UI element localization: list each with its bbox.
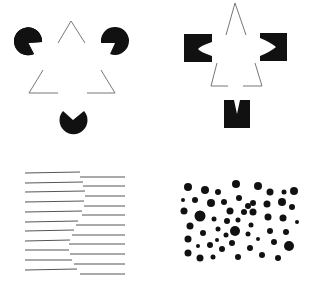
notched-square-bottom	[224, 100, 250, 128]
panel-dot-field	[181, 180, 300, 262]
panel-notched-squares	[184, 3, 287, 128]
notched-square-left	[184, 34, 212, 62]
panel-kanizsa-triangle	[14, 21, 129, 134]
panel-offset-gratings	[25, 172, 125, 274]
notched-square-right	[260, 33, 287, 61]
illusory-contours-figure	[0, 0, 315, 288]
pacman-bottom	[60, 111, 88, 134]
